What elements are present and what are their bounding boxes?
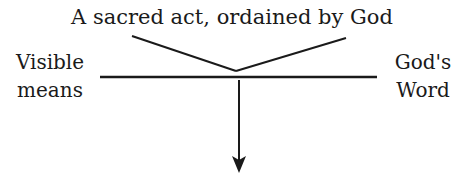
right-diagonal-line	[236, 38, 346, 71]
left-diagonal-line	[132, 36, 236, 71]
sacrament-diagram: A sacred act, ordained by God Visible me…	[0, 0, 464, 195]
diagram-lines	[0, 0, 464, 195]
